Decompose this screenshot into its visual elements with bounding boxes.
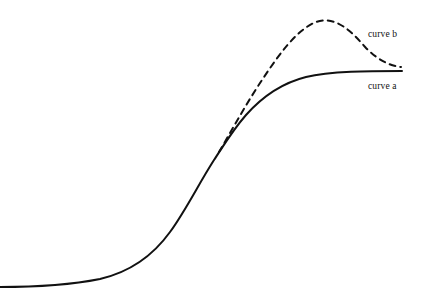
curve-plot	[0, 0, 422, 301]
plot-background	[0, 0, 422, 301]
figure-canvas: curve b curve a	[0, 0, 422, 301]
curve-a-label: curve a	[368, 82, 397, 92]
curve-b-label: curve b	[368, 30, 397, 40]
